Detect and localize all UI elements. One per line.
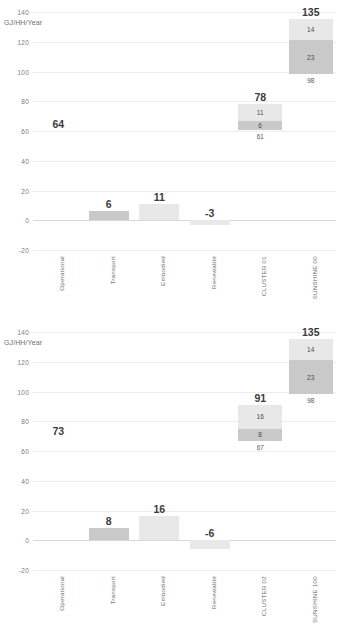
segment-value-label: 14 [307, 346, 315, 353]
bar-column[interactable]: 6 [84, 12, 135, 250]
bar-column[interactable]: 142313598 [286, 12, 337, 250]
segment-value-label: 23 [307, 374, 315, 381]
bar[interactable] [139, 516, 179, 540]
x-axis-label-cell: SUNSHINE 00 [286, 254, 337, 314]
column-total-label: 73 [52, 425, 64, 437]
bar-column[interactable]: 73 [33, 332, 84, 570]
bar-column[interactable]: 1167861 [235, 12, 286, 250]
x-axis-label: Embodied [159, 576, 166, 606]
x-axis-label-cell: CLUSTER 01 [235, 254, 286, 314]
column-total-label: 135 [302, 326, 320, 338]
bar-segment[interactable]: 14 [289, 19, 333, 40]
base-value-label: 61 [257, 133, 264, 140]
y-axis-tick: -20 [19, 247, 29, 254]
bar-column[interactable]: 64 [33, 12, 84, 250]
y-axis-tick: 60 [21, 448, 29, 455]
bar[interactable] [139, 204, 179, 220]
x-axis-label: Renewable [210, 576, 217, 609]
bar-column[interactable]: -3 [185, 12, 236, 250]
bar-columns: 73816-61689167142313598 [33, 332, 336, 570]
bar-segment[interactable]: 6 [238, 121, 282, 130]
bar-column[interactable]: 142313598 [286, 332, 337, 570]
y-axis-tick: 100 [18, 68, 29, 75]
segment-value-label: 16 [256, 413, 264, 420]
segment-value-label: 6 [258, 122, 262, 129]
column-total-label: 91 [254, 392, 266, 404]
x-axis-label: CLUSTER 02 [260, 576, 267, 616]
bar-segment[interactable]: 16 [238, 405, 282, 429]
x-axis-labels: OperationalTransportEmbodiedRenewableCLU… [33, 574, 336, 634]
bar-column[interactable]: 11 [134, 12, 185, 250]
bar-segment[interactable]: 11 [238, 104, 282, 120]
x-axis-labels: OperationalTransportEmbodiedRenewableCLU… [33, 254, 336, 314]
y-axis-tick: 0 [25, 217, 29, 224]
x-axis-label: CLUSTER 01 [260, 256, 267, 296]
plot-area: 140120100806040200-20GJ/HH/Year64611-311… [33, 12, 336, 250]
bar[interactable] [190, 540, 230, 549]
segment-value-label: 11 [257, 109, 264, 116]
x-axis-label: Operational [58, 576, 65, 611]
column-total-label: 135 [302, 6, 320, 18]
x-axis-label: SUNSHINE 100 [311, 576, 318, 623]
column-total-label: 11 [154, 191, 165, 203]
y-axis-tick: 100 [18, 388, 29, 395]
segment-value-label: 8 [258, 431, 262, 438]
column-total-label: 8 [106, 515, 112, 527]
x-axis-label-cell: Embodied [134, 574, 185, 634]
y-axis-tick: 60 [21, 128, 29, 135]
bar-chart-1: 140120100806040200-20GJ/HH/Year64611-311… [0, 0, 338, 320]
bar[interactable] [89, 528, 129, 540]
bar-segment[interactable]: 8 [238, 429, 282, 441]
base-value-label: 98 [307, 77, 314, 84]
bar-segment[interactable]: 23 [289, 360, 333, 394]
y-axis-tick: 20 [21, 507, 29, 514]
bar-column[interactable]: 16 [134, 332, 185, 570]
stacked-bar[interactable]: 168 [238, 405, 282, 441]
y-axis-tick: 20 [21, 187, 29, 194]
stacked-bar[interactable]: 116 [238, 104, 282, 129]
y-axis-tick: 120 [18, 38, 29, 45]
x-axis-label-cell: Operational [33, 254, 84, 314]
bar-segment[interactable]: 23 [289, 40, 333, 74]
column-total-label: 64 [52, 118, 64, 130]
bar-column[interactable]: 8 [84, 332, 135, 570]
x-axis-label-cell: SUNSHINE 100 [286, 574, 337, 634]
stacked-bar[interactable]: 1423 [289, 339, 333, 394]
x-axis-label-cell: Renewable [185, 574, 236, 634]
x-axis-label: Transport [109, 576, 116, 605]
base-value-label: 98 [307, 397, 314, 404]
column-total-label: 16 [153, 503, 165, 515]
x-axis-label-cell: Operational [33, 574, 84, 634]
x-axis-label: Renewable [210, 256, 217, 289]
base-value-label: 67 [257, 444, 264, 451]
bar-column[interactable]: 1689167 [235, 332, 286, 570]
y-axis-tick: 40 [21, 477, 29, 484]
bar-column[interactable]: -6 [185, 332, 236, 570]
x-axis-label-cell: Embodied [134, 254, 185, 314]
gridline [33, 570, 336, 571]
chart-stack: 140120100806040200-20GJ/HH/Year64611-311… [0, 0, 338, 640]
y-axis-tick: 80 [21, 418, 29, 425]
x-axis-label: Embodied [159, 256, 166, 286]
x-axis-label: SUNSHINE 00 [311, 256, 318, 299]
y-axis-tick: 80 [21, 98, 29, 105]
y-axis-tick: 140 [18, 9, 29, 16]
bar-segment[interactable]: 14 [289, 339, 333, 360]
x-axis-label-cell: Renewable [185, 254, 236, 314]
column-total-label: -3 [205, 207, 214, 219]
y-axis-tick: 40 [21, 157, 29, 164]
bar-columns: 64611-31167861142313598 [33, 12, 336, 250]
x-axis-label-cell: Transport [84, 574, 135, 634]
y-axis-tick: 140 [18, 329, 29, 336]
column-total-label: 6 [106, 198, 112, 210]
plot-area: 140120100806040200-20GJ/HH/Year73816-616… [33, 332, 336, 570]
bar[interactable] [190, 220, 230, 224]
bar[interactable] [89, 211, 129, 220]
x-axis-label-cell: CLUSTER 02 [235, 574, 286, 634]
y-axis-tick: 120 [18, 358, 29, 365]
y-axis-tick: 0 [25, 537, 29, 544]
segment-value-label: 14 [307, 26, 315, 33]
stacked-bar[interactable]: 1423 [289, 19, 333, 74]
x-axis-label-cell: Transport [84, 254, 135, 314]
bar-chart-2: 140120100806040200-20GJ/HH/Year73816-616… [0, 320, 338, 640]
